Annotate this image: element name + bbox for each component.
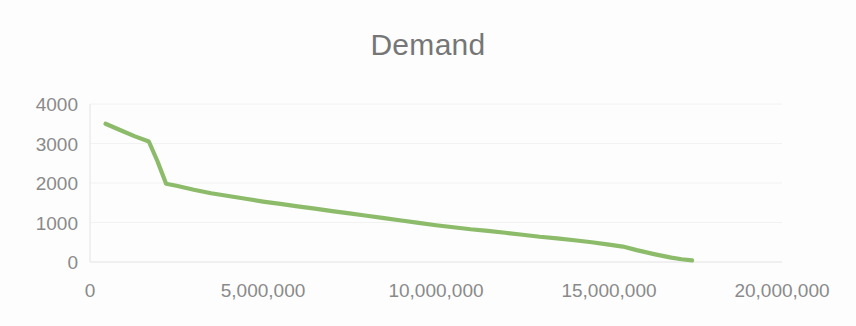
y-axis-tick-label: 4000 [36, 94, 78, 115]
data-series [106, 124, 692, 261]
y-axis-tick-label: 3000 [36, 134, 78, 155]
y-axis-tick-label: 2000 [36, 173, 78, 194]
x-axis-tick-label: 5,000,000 [221, 280, 306, 301]
x-axis-tick-label: 10,000,000 [388, 280, 483, 301]
x-axis-tick-labels: 05,000,00010,000,00015,000,00020,000,000 [85, 280, 830, 301]
chart-plot-area: 01000200030004000 05,000,00010,000,00015… [0, 0, 856, 326]
y-axis-tick-label: 1000 [36, 213, 78, 234]
x-axis-tick-label: 20,000,000 [734, 280, 829, 301]
demand-chart: Demand 01000200030004000 05,000,00010,00… [0, 0, 856, 326]
y-axis-tick-labels: 01000200030004000 [36, 94, 78, 273]
x-axis-tick-label: 15,000,000 [561, 280, 656, 301]
gridlines [90, 104, 782, 262]
series-line-demand [106, 124, 692, 261]
x-axis-tick-label: 0 [85, 280, 96, 301]
y-axis-tick-label: 0 [67, 252, 78, 273]
